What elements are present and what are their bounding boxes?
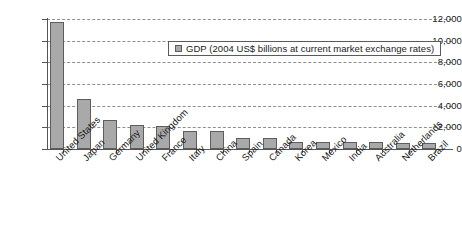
y-axis-tick — [42, 19, 48, 20]
gridline — [47, 106, 452, 107]
y-axis-tick — [42, 41, 48, 42]
gridline — [47, 19, 452, 20]
y-axis-tick-label: 12,000 — [418, 14, 462, 24]
bar-chart: 02,0004,0006,0008,00010,00012,000 United… — [0, 0, 462, 230]
gridline — [47, 84, 452, 85]
y-axis-tick — [42, 62, 48, 63]
y-axis-tick — [42, 106, 48, 107]
y-axis-tick-label: 6,000 — [418, 79, 462, 89]
legend-swatch-icon — [175, 45, 182, 52]
legend-label: GDP (2004 US$ billions at current market… — [186, 43, 434, 54]
y-axis-tick — [42, 84, 48, 85]
y-axis-tick-label: 8,000 — [418, 57, 462, 67]
y-axis-tick-label: 4,000 — [418, 101, 462, 111]
bar — [50, 22, 64, 149]
legend: GDP (2004 US$ billions at current market… — [168, 41, 441, 56]
plot-area — [47, 19, 452, 149]
gridline — [47, 62, 452, 63]
y-axis-tick — [42, 127, 48, 128]
y-axis-tick — [42, 149, 48, 150]
